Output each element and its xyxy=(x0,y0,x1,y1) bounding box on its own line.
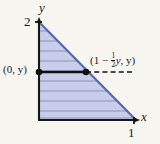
y-axis-label: y xyxy=(39,1,45,14)
one-half-fraction: 12 xyxy=(111,52,115,69)
point-marker-left xyxy=(36,69,43,76)
x-tick-label-1: 1 xyxy=(128,126,135,139)
point-label-right-prefix: (1 − xyxy=(90,54,111,66)
point-marker-right xyxy=(83,69,90,76)
math-figure-shaded-triangle: y x 2 1 (0, y) (1 − 12y, y) xyxy=(0,0,160,144)
point-label-right-suffix: , y) xyxy=(121,54,136,66)
y-tick-label-2: 2 xyxy=(24,15,31,28)
point-label-left: (0, y) xyxy=(3,64,27,75)
fraction-denominator: 2 xyxy=(111,60,115,69)
x-axis-label: x xyxy=(141,110,147,123)
fraction-numerator: 1 xyxy=(111,52,115,60)
point-label-right: (1 − 12y, y) xyxy=(90,52,135,69)
